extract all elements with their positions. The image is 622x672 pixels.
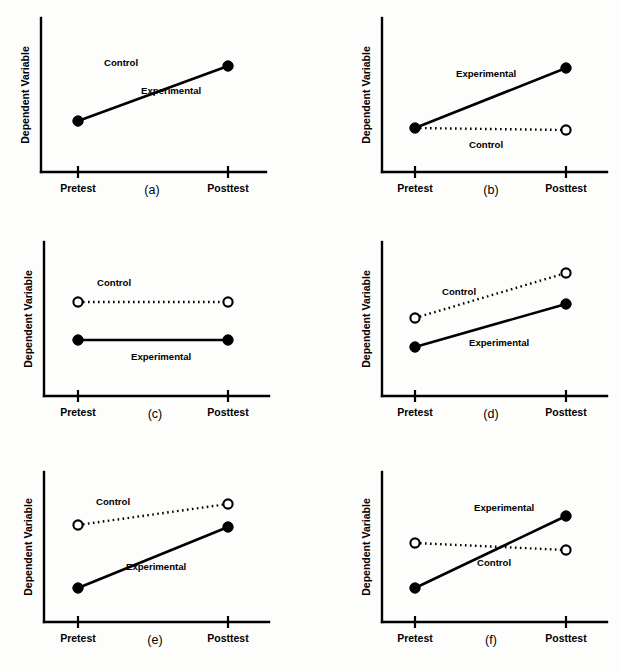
marker-experimental-pretest [73,335,83,345]
marker-experimental-posttest [561,511,571,521]
series-label-control: Control [96,496,130,507]
marker-pretest [73,116,83,126]
marker-control-posttest [223,297,232,306]
marker-control-posttest [561,545,570,554]
marker-posttest [223,61,233,71]
series-line-control [415,543,566,550]
tick-label-posttest: Posttest [545,182,587,194]
marker-control-pretest [410,313,419,322]
tick-label-pretest: Pretest [60,632,96,644]
series-label-control: Control [97,277,131,288]
series-line-experimental [78,527,228,588]
axes-a [41,18,266,178]
panel-label-a: (a) [144,183,159,197]
tick-label-pretest: Pretest [60,182,96,194]
tick-label-posttest: Posttest [207,182,249,194]
series-label-experimental: Experimental [126,561,186,572]
series-label-experimental: Experimental [469,337,529,348]
marker-experimental-pretest [73,583,83,593]
panel-label-b: (b) [483,183,498,197]
series-label-control: Control [477,557,511,568]
marker-experimental-pretest [410,583,420,593]
series-label-experimental: Experimental [141,85,201,96]
panel-label-f: (f) [485,633,497,647]
tick-label-posttest: Posttest [207,406,249,418]
panel-d: Dependent Variable Pretest Posttest (d) … [311,224,622,448]
axes-e [44,472,269,628]
series-label-control: Control [469,139,503,150]
y-axis-label: Dependent Variable [360,498,372,596]
series-line-control [78,504,228,525]
y-axis-label: Dependent Variable [19,46,31,144]
panel-a: Dependent Variable Pretest Posttest (a) … [0,0,311,224]
panel-c: Dependent Variable Pretest Posttest (c) … [0,224,311,448]
tick-label-pretest: Pretest [397,406,433,418]
marker-control-posttest [561,268,570,277]
marker-control-posttest [561,125,570,134]
series-label-experimental: Experimental [474,502,534,513]
marker-control-pretest [73,520,82,529]
panel-label-d: (d) [483,407,498,421]
tick-label-pretest: Pretest [397,632,433,644]
series-label-control: Control [104,57,138,68]
marker-experimental-posttest [223,335,233,345]
series-line-control [415,128,566,130]
figure-container: Dependent Variable Pretest Posttest (a) … [0,0,622,672]
panel-f: Dependent Variable Pretest Posttest (f) … [311,448,622,672]
tick-label-posttest: Posttest [545,632,587,644]
axes-b [382,18,607,178]
y-axis-label: Dependent Variable [22,270,34,368]
marker-pretest [410,123,420,133]
y-axis-label: Dependent Variable [22,498,34,596]
tick-label-pretest: Pretest [397,182,433,194]
panel-label-c: (c) [148,407,163,421]
series-label-experimental: Experimental [131,351,191,362]
tick-label-posttest: Posttest [207,632,249,644]
marker-experimental-posttest [561,299,571,309]
panel-e: Dependent Variable Pretest Posttest (e) … [0,448,311,672]
tick-label-posttest: Posttest [545,406,587,418]
marker-experimental-pretest [410,342,420,352]
marker-control-pretest [410,538,419,547]
series-label-control: Control [442,286,476,297]
marker-control-pretest [73,297,82,306]
y-axis-label: Dependent Variable [360,270,372,368]
marker-experimental-posttest [561,63,571,73]
series-label-experimental: Experimental [456,68,516,79]
y-axis-label: Dependent Variable [360,46,372,144]
marker-control-posttest [223,499,232,508]
panel-label-e: (e) [147,633,162,647]
panel-b: Dependent Variable Pretest Posttest (b) … [311,0,622,224]
series-line-experimental [415,516,566,588]
tick-label-pretest: Pretest [60,406,96,418]
marker-experimental-posttest [223,522,233,532]
axes-c [44,242,269,402]
